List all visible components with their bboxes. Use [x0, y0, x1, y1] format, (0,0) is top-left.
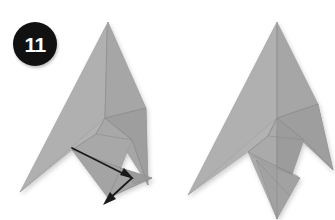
step-number-badge: 11	[13, 22, 57, 66]
diagram-canvas: 11	[0, 0, 335, 220]
